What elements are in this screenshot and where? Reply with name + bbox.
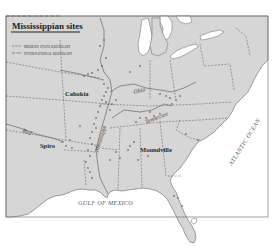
lake-okeechobee	[191, 218, 197, 224]
site-label-moundville: Moundville	[140, 146, 172, 153]
legend-state-label: MODERN STATE BOUNDARY	[24, 45, 71, 49]
site-label-spiro: Spiro	[40, 142, 55, 149]
site-label-cahokia: Cahokia	[65, 90, 89, 97]
mississippian-sites-map: Mississippian sites MODERN STATE BOUNDAR…	[0, 0, 272, 248]
gulf-of-mexico-label: GULF OF MEXICO	[78, 199, 133, 206]
atlantic-ocean-label: ATLANTIC OCEAN	[226, 117, 261, 168]
land-mass	[6, 16, 268, 243]
legend-intl-label: INTERNATIONAL BOUNDARY	[24, 52, 73, 56]
map-title: Mississippian sites	[12, 21, 83, 31]
